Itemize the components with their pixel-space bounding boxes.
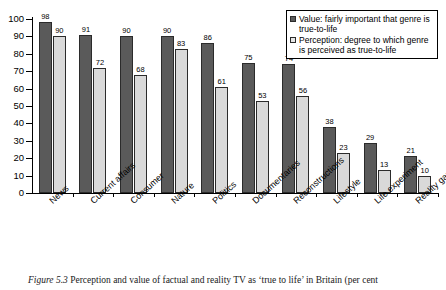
bar-value-label: 91 [75, 26, 96, 34]
legend-label-perception: Perception: degree to which genre is per… [299, 35, 433, 55]
bar-value-label: 90 [116, 27, 137, 35]
bar-value [201, 43, 214, 193]
bar-value-label: 75 [238, 54, 259, 62]
bar-value-label: 61 [211, 78, 232, 86]
bar-value-label: 53 [252, 92, 273, 100]
figure-container: 0102030405060708090100 98909172906890838… [0, 0, 446, 290]
bar-perception [93, 68, 106, 193]
bar-value-label: 86 [197, 34, 218, 42]
chart-legend: Value: fairly important that genre is tr… [286, 10, 438, 59]
figure-caption-text: Perception and value of factual and real… [70, 275, 378, 285]
bar-value [161, 36, 174, 193]
bar-value [242, 63, 255, 194]
bar-value-label: 90 [157, 27, 178, 35]
bar-perception [175, 49, 188, 193]
legend-swatch-perception-icon [290, 37, 296, 43]
bar-value-label: 83 [171, 40, 192, 48]
bar-value-label: 13 [374, 161, 395, 169]
bar-perception [53, 36, 66, 193]
bar-perception [215, 87, 228, 193]
bar-value-label: 23 [333, 144, 354, 152]
bar-value-label: 72 [89, 59, 110, 67]
bar-perception [134, 75, 147, 193]
bar-perception [296, 96, 309, 193]
bar-value-label: 38 [319, 118, 340, 126]
legend-swatch-value-icon [290, 16, 296, 22]
bar-value-label: 56 [292, 87, 313, 95]
bar-value-label: 98 [35, 13, 56, 21]
legend-item-perception: Perception: degree to which genre is per… [290, 35, 433, 55]
legend-item-value: Value: fairly important that genre is tr… [290, 14, 433, 34]
bar-value-label: 68 [130, 66, 151, 74]
bar-perception [256, 101, 269, 193]
legend-label-value: Value: fairly important that genre is tr… [299, 14, 433, 34]
bar-value-label: 21 [400, 147, 421, 155]
bar-value [39, 22, 52, 193]
bar-value-label: 90 [49, 27, 70, 35]
figure-caption: Figure 5.3 Perception and value of factu… [28, 274, 444, 286]
bar-value-label: 29 [360, 134, 381, 142]
figure-number: Figure 5.3 [28, 275, 68, 285]
